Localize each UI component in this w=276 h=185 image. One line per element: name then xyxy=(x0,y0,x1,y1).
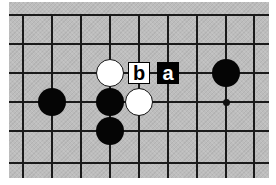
move-label-b: b xyxy=(128,62,150,84)
black-stone xyxy=(212,59,240,87)
move-label-a: a xyxy=(157,62,179,84)
grid-vline xyxy=(196,15,198,178)
black-stone xyxy=(96,88,124,116)
board-overlay: ba xyxy=(0,0,276,185)
grid-vline xyxy=(225,15,227,178)
white-stone xyxy=(96,59,124,87)
grid-vline xyxy=(22,15,24,178)
star-point xyxy=(223,99,230,106)
grid-vline xyxy=(80,15,82,178)
black-stone xyxy=(96,117,124,145)
grid-vline xyxy=(167,15,169,178)
grid-vline xyxy=(253,15,255,178)
black-stone xyxy=(38,88,66,116)
white-stone xyxy=(125,88,153,116)
